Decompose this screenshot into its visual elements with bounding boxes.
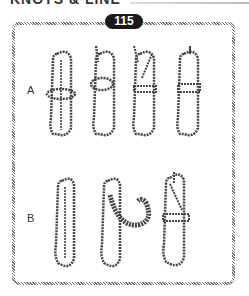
- knot-b2-illustration: [98, 175, 158, 271]
- row-label-a: A: [27, 84, 34, 96]
- row-label-b: B: [27, 212, 34, 224]
- knot-a3-illustration: [128, 44, 162, 140]
- heading-rule: [130, 2, 249, 4]
- page-heading-cropped: KNOTS & LINE: [10, 0, 121, 7]
- knot-a4-illustration: [172, 44, 206, 140]
- knot-a1-illustration: [45, 48, 79, 140]
- figure-number-badge: 115: [105, 14, 143, 29]
- knot-b1-illustration: [52, 175, 82, 271]
- knot-b3-illustration: [160, 170, 192, 270]
- knot-a2-illustration: [88, 44, 122, 140]
